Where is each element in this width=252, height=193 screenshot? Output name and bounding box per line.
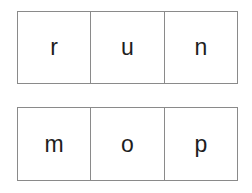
letter-box: u [91, 12, 164, 83]
letter-box: p [165, 108, 237, 180]
letter-row-1: r u n [17, 11, 238, 84]
letter-box: m [18, 108, 91, 180]
letter-box: r [18, 12, 91, 83]
letter-row-2: m o p [17, 107, 238, 181]
letter-box: n [165, 12, 237, 83]
letter-box: o [91, 108, 164, 180]
